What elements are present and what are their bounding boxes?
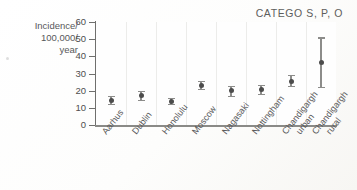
- chart-title: CATEGO S, P, O: [256, 7, 343, 19]
- error-bar-cap-lower: [228, 96, 235, 97]
- data-point-marker: [199, 83, 204, 88]
- y-tick-mark: [89, 56, 95, 57]
- y-tick-label: 50: [64, 33, 86, 44]
- error-bar-cap-upper: [108, 96, 115, 97]
- figure-canvas: CATEGO S, P, O Incidence/ 100,000/ year …: [0, 0, 357, 190]
- y-tick-mark: [89, 22, 95, 23]
- error-bar-cap-lower: [258, 94, 265, 95]
- data-point-marker: [139, 93, 144, 98]
- paper-speckle: [6, 57, 9, 60]
- y-tick-mark: [89, 39, 95, 40]
- y-tick-mark: [89, 74, 95, 75]
- data-point-marker: [109, 98, 114, 103]
- error-bar-cap-upper: [138, 91, 145, 92]
- y-tick-label: 60: [64, 16, 86, 27]
- y-tick-label: 20: [64, 85, 86, 96]
- y-tick-mark: [89, 108, 95, 109]
- y-tick-mark: [89, 125, 95, 126]
- y-tick-mark: [89, 91, 95, 92]
- data-point-marker: [289, 79, 294, 84]
- error-bar-cap-lower: [288, 86, 295, 87]
- error-bar-cap-upper: [228, 86, 235, 87]
- gridline-vertical: [126, 22, 127, 125]
- gridline-vertical: [156, 22, 157, 125]
- error-bar-cap-upper: [318, 37, 325, 38]
- error-bar-cap-lower: [138, 100, 145, 101]
- data-point-marker: [169, 99, 174, 104]
- y-tick-label: 10: [64, 102, 86, 113]
- error-bar-cap-upper: [288, 75, 295, 76]
- data-point-marker: [229, 88, 234, 93]
- data-point-marker: [259, 87, 264, 92]
- data-point-marker: [319, 60, 324, 65]
- y-tick-label: 40: [64, 50, 86, 61]
- error-bar-cap-upper: [258, 85, 265, 86]
- error-bar-cap-lower: [318, 87, 325, 88]
- y-tick-label: 30: [64, 68, 86, 79]
- error-bar-cap-lower: [108, 104, 115, 105]
- error-bar-cap-lower: [198, 89, 205, 90]
- y-axis-line: [95, 21, 96, 126]
- error-bar-cap-lower: [168, 104, 175, 105]
- y-tick-label: 0: [64, 119, 86, 130]
- y-axis-ticks: 0102030405060: [62, 0, 86, 190]
